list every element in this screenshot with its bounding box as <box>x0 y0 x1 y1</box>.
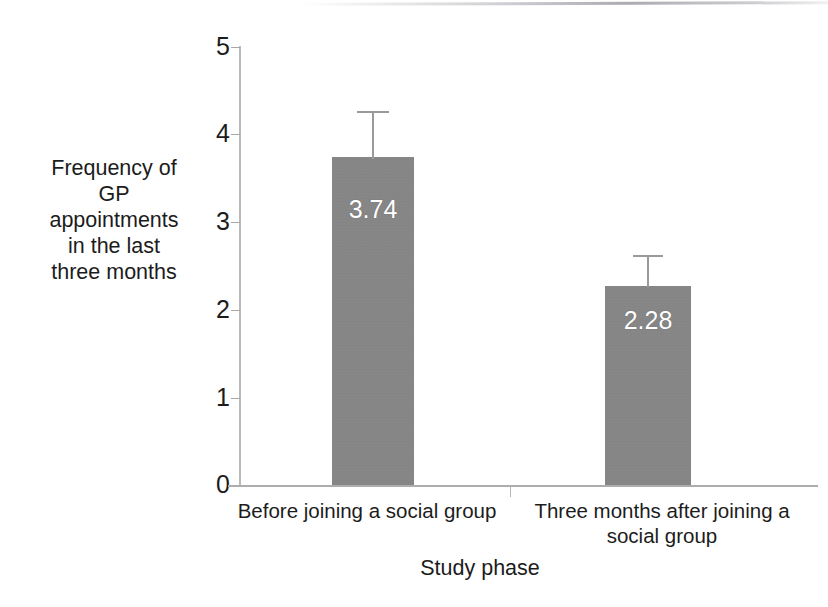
bar-before-joining: 3.74 <box>332 157 414 485</box>
y-tick-mark-3 <box>231 222 240 223</box>
y-tick-label-4: 4 <box>196 121 230 146</box>
y-axis-line <box>239 46 241 486</box>
bar-value-label-1: 2.28 <box>605 308 691 333</box>
y-tick-0: 0 <box>186 472 230 497</box>
x-axis-line <box>228 485 818 487</box>
x-category-label-before-joining: Before joining a social group <box>222 498 512 523</box>
y-tick-5: 5 <box>186 34 230 59</box>
x-category-label-three-months-after: Three months after joining a social grou… <box>512 498 812 548</box>
x-category-label-1-line-1: social group <box>512 523 812 548</box>
y-axis-title: Frequency of GP appointments in the last… <box>26 155 202 285</box>
error-bar-cap-1 <box>633 255 663 257</box>
y-axis-title-line-4: three months <box>26 259 202 285</box>
y-tick-label-1: 1 <box>196 385 230 410</box>
y-tick-label-0: 0 <box>196 472 230 497</box>
x-category-label-1-line-0: Three months after joining a <box>512 498 812 523</box>
y-tick-mark-5 <box>231 47 240 48</box>
x-axis-category-divider <box>510 486 511 497</box>
y-axis-title-line-1: GP <box>26 181 202 207</box>
bar-three-months-after: 2.28 <box>605 286 691 485</box>
error-bar-stem-1 <box>647 256 649 287</box>
x-category-label-0-line-0: Before joining a social group <box>222 498 512 523</box>
y-tick-mark-1 <box>231 398 240 399</box>
bar-value-label-0: 3.74 <box>332 197 414 222</box>
y-axis-title-line-3: in the last <box>26 233 202 259</box>
bar-chart: 5 4 3 2 1 0 3.74 2.28 Frequency of GP ap… <box>0 0 828 607</box>
y-tick-label-5: 5 <box>196 34 230 59</box>
error-bar-cap-0 <box>357 111 389 113</box>
error-bar-stem-0 <box>372 112 374 159</box>
y-axis-title-line-0: Frequency of <box>26 155 202 181</box>
y-tick-mark-2 <box>231 310 240 311</box>
y-axis-title-line-2: appointments <box>26 207 202 233</box>
y-tick-mark-4 <box>231 134 240 135</box>
y-tick-label-2: 2 <box>196 297 230 322</box>
y-tick-4: 4 <box>186 121 230 146</box>
y-tick-1: 1 <box>186 385 230 410</box>
x-axis-title: Study phase <box>330 556 630 581</box>
y-tick-2: 2 <box>186 297 230 322</box>
